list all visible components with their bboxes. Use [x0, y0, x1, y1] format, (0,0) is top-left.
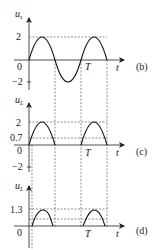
panel-d: uL 1.3 0 T t (d) — [10, 180, 148, 248]
waveform-figure: us 2 0 −2 T t (b) uL 2 0.7 0 −2 T t (c) … — [0, 0, 162, 250]
ytick-2-c: 2 — [16, 117, 21, 128]
period-label-c: T — [85, 147, 92, 158]
xlabel-b: t — [116, 62, 119, 73]
panel-label-d: (d) — [136, 225, 148, 237]
ytick-2-b: 2 — [16, 31, 21, 42]
period-label-d: T — [85, 228, 92, 239]
ytick-minus2-b: −2 — [12, 76, 23, 87]
xlabel-c: t — [116, 147, 119, 158]
ylabel-c: uL — [15, 94, 24, 106]
origin-label-c: 0 — [17, 145, 22, 156]
sine-curve-b — [29, 37, 107, 82]
ytick-minus2-c: −2 — [12, 161, 23, 172]
ytick-0.7-c: 0.7 — [10, 132, 23, 143]
ytick-1.3-d: 1.3 — [10, 204, 23, 215]
origin-label-d: 0 — [17, 227, 22, 238]
panel-label-b: (b) — [136, 61, 148, 73]
xlabel-d: t — [116, 228, 119, 239]
origin-label-b: 0 — [17, 61, 22, 72]
rectified-curve-d — [32, 210, 105, 226]
vertical-guide-lines — [32, 60, 107, 250]
ylabel-b: us — [15, 8, 23, 20]
ylabel-d: uL — [15, 180, 24, 192]
period-label-b: T — [85, 61, 92, 72]
panel-c: uL 2 0.7 0 −2 T t (c) — [10, 94, 147, 172]
panel-b: us 2 0 −2 T t (b) — [12, 8, 148, 250]
rectified-curve-c — [29, 122, 107, 145]
panel-label-c: (c) — [136, 146, 147, 158]
